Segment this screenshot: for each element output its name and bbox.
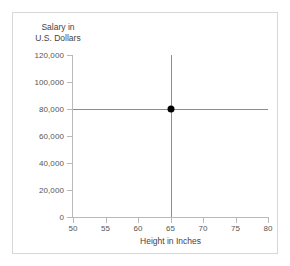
x-axis-tick-label: 80 <box>263 224 272 233</box>
chart-figure: Salary in U.S. Dollars 020,00040,00060,0… <box>0 0 290 266</box>
y-axis-tick <box>67 109 72 110</box>
x-axis-tick-label: 65 <box>166 224 175 233</box>
y-axis-title-line-1: Salary in <box>22 22 94 33</box>
y-axis-title: Salary in U.S. Dollars <box>22 22 94 44</box>
y-axis-tick-label: 120,000 <box>0 51 64 60</box>
y-axis-tick <box>67 55 72 56</box>
y-axis-tick-label: 40,000 <box>0 159 64 168</box>
x-axis-tick <box>73 218 74 223</box>
x-axis-tick <box>236 218 237 223</box>
x-axis-title: Height in Inches <box>73 236 268 246</box>
y-axis-tick <box>67 163 72 164</box>
x-axis-tick <box>171 218 172 223</box>
x-axis-tick <box>268 218 269 223</box>
x-axis-tick-label: 70 <box>198 224 207 233</box>
y-axis-title-line-2: U.S. Dollars <box>22 33 94 44</box>
x-axis-tick-label: 75 <box>231 224 240 233</box>
x-axis-tick-label: 50 <box>68 224 77 233</box>
y-axis-tick-label: 0 <box>0 213 64 222</box>
y-axis-tick <box>67 136 72 137</box>
x-axis-tick <box>106 218 107 223</box>
y-axis-tick <box>67 82 72 83</box>
data-point-marker <box>167 106 174 113</box>
y-axis-tick-label: 100,000 <box>0 78 64 87</box>
y-axis-line <box>72 55 73 218</box>
x-axis-tick <box>203 218 204 223</box>
y-axis-tick-label: 80,000 <box>0 105 64 114</box>
y-axis-tick-label: 60,000 <box>0 132 64 141</box>
x-axis-tick-label: 55 <box>101 224 110 233</box>
x-axis-tick <box>138 218 139 223</box>
y-axis-tick <box>67 217 72 218</box>
vertical-reference-line <box>171 55 172 217</box>
x-axis-tick-label: 60 <box>133 224 142 233</box>
y-axis-tick <box>67 190 72 191</box>
y-axis-tick-label: 20,000 <box>0 186 64 195</box>
